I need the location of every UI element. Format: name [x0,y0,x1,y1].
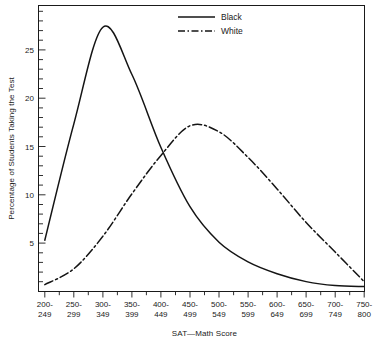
chart-legend: Black White [178,12,243,36]
legend-label-white: White [221,26,243,36]
x-tick-label: 800 [358,310,372,319]
y-tick-label: 20 [25,94,34,103]
plot-frame [39,6,365,292]
y-axis-tick-labels: 5 10 15 20 25 [25,46,34,248]
x-tick-label: 500- [211,300,227,309]
x-tick-label: 300- [95,300,111,309]
series-line-white [45,124,364,284]
x-tick-label: 200- [37,300,53,309]
x-tick-label: 549 [212,310,226,319]
series-line-black [45,26,364,287]
x-tick-label: 499 [183,310,197,319]
x-tick-label: 750- [356,300,372,309]
x-tick-label: 699 [299,310,313,319]
x-tick-label: 399 [125,310,139,319]
chart-figure: 5 10 15 20 25 Percentage of Students Tak… [0,0,377,347]
x-axis-title: SAT—Math Score [172,329,238,338]
x-tick-label: 700- [327,300,343,309]
x-tick-label: 299 [67,310,81,319]
x-tick-label: 350- [124,300,140,309]
x-tick-label: 400- [153,300,169,309]
x-tick-label: 599 [241,310,255,319]
y-tick-label: 5 [30,239,35,248]
x-tick-label: 349 [96,310,110,319]
legend-label-black: Black [221,12,243,22]
x-tick-label: 600- [269,300,285,309]
x-axis-tick-labels-upper: 200- 250- 300- 350- 400- 450- 500- 550- … [37,300,373,309]
x-tick-label: 249 [38,310,52,319]
y-axis-title: Percentage of Students Taking the Test [7,76,16,219]
x-tick-label: 749 [329,310,343,319]
x-axis-tick-labels-lower: 249 299 349 399 449 499 549 599 649 699 … [38,310,371,319]
x-tick-label: 250- [66,300,82,309]
x-tick-label: 449 [154,310,168,319]
y-tick-label: 15 [25,143,34,152]
x-tick-label: 650- [298,300,314,309]
y-tick-label: 25 [25,46,34,55]
sat-math-score-distribution-chart: 5 10 15 20 25 Percentage of Students Tak… [0,0,377,347]
x-tick-label: 550- [240,300,256,309]
x-tick-label: 450- [182,300,198,309]
y-tick-label: 10 [25,191,34,200]
x-tick-label: 649 [270,310,284,319]
